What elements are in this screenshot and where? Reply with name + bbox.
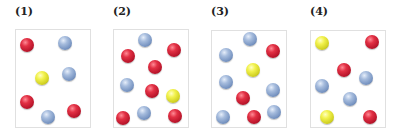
blue-particle [138,33,152,47]
yellow-particle [35,71,49,85]
panel-label: (4) [310,5,328,18]
yellow-particle [166,89,180,103]
blue-particle [315,79,329,93]
red-particle [266,44,280,58]
blue-particle [137,106,151,120]
blue-particle [267,105,281,119]
yellow-particle [320,110,334,124]
red-particle [236,91,250,105]
blue-particle [216,110,230,124]
blue-particle [41,110,55,124]
red-particle [337,63,351,77]
red-particle [121,49,135,63]
panel-label: (1) [15,5,33,18]
red-particle [116,111,130,125]
blue-particle [359,71,373,85]
blue-particle [120,78,134,92]
red-particle [148,60,162,74]
red-particle [168,109,182,123]
red-particle [365,35,379,49]
red-particle [363,110,377,124]
blue-particle [58,36,72,50]
red-particle [167,43,181,57]
panel-label: (3) [211,5,229,18]
blue-particle [243,32,257,46]
blue-particle [219,75,233,89]
red-particle [67,104,81,118]
blue-particle [62,67,76,81]
red-particle [247,110,261,124]
blue-particle [343,92,357,106]
red-particle [145,84,159,98]
yellow-particle [315,36,329,50]
red-particle [20,38,34,52]
panel-label: (2) [113,5,131,18]
blue-particle [219,48,233,62]
blue-particle [266,83,280,97]
red-particle [20,95,34,109]
yellow-particle [246,63,260,77]
